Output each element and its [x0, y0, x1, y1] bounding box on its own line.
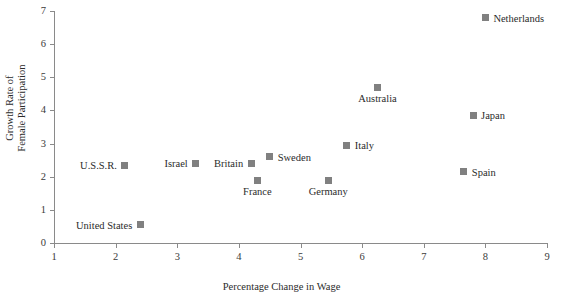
data-point-label: Germany: [309, 187, 348, 198]
x-tick-6: [362, 244, 363, 248]
y-tick-label-7: 7: [4, 6, 46, 17]
data-point-marker[interactable]: [248, 160, 255, 167]
x-tick-label-2: 2: [101, 252, 131, 263]
data-point-marker[interactable]: [343, 142, 350, 149]
data-point-label: Spain: [472, 168, 496, 179]
x-tick-5: [301, 244, 302, 248]
x-tick-label-8: 8: [470, 252, 500, 263]
x-tick-7: [424, 244, 425, 248]
data-point-label: Israel: [164, 159, 187, 170]
data-point-label: United States: [76, 221, 132, 232]
data-point-marker[interactable]: [460, 168, 467, 175]
x-tick-label-5: 5: [286, 252, 316, 263]
x-tick-3: [177, 244, 178, 248]
y-axis-title-line-2: Female Participation: [16, 28, 28, 188]
data-point-marker[interactable]: [137, 221, 144, 228]
data-point-label: Britain: [214, 159, 243, 170]
data-point-label: Australia: [358, 94, 397, 105]
scatter-plot-figure: 01234567 123456789 Percentage Change in …: [0, 0, 563, 301]
y-tick-label-0: 0: [4, 238, 46, 249]
data-point-label: Sweden: [278, 153, 311, 164]
y-tick-label-1: 1: [4, 205, 46, 216]
x-tick-label-9: 9: [532, 252, 562, 263]
x-tick-label-3: 3: [162, 252, 192, 263]
data-point-marker[interactable]: [325, 177, 332, 184]
x-axis-title: Percentage Change in Wage: [0, 281, 563, 292]
x-tick-4: [239, 244, 240, 248]
data-point-marker[interactable]: [192, 160, 199, 167]
x-tick-8: [485, 244, 486, 248]
x-tick-9: [547, 244, 548, 248]
x-tick-2: [116, 244, 117, 248]
data-point-label: Netherlands: [493, 14, 544, 25]
data-point-marker[interactable]: [482, 14, 489, 21]
data-point-label: Japan: [481, 111, 505, 122]
data-point-label: France: [243, 187, 272, 198]
y-axis-title-line-1: Growth Rate of: [4, 28, 16, 188]
plot-data-area: [54, 11, 547, 243]
data-point-marker[interactable]: [266, 153, 273, 160]
data-point-marker[interactable]: [374, 84, 381, 91]
x-tick-label-7: 7: [409, 252, 439, 263]
data-point-marker[interactable]: [470, 112, 477, 119]
x-tick-label-1: 1: [39, 252, 69, 263]
data-point-label: Italy: [355, 141, 374, 152]
data-point-marker[interactable]: [254, 177, 261, 184]
data-point-label: U.S.S.R.: [80, 161, 117, 172]
x-tick-label-6: 6: [347, 252, 377, 263]
data-point-marker[interactable]: [121, 162, 128, 169]
x-tick-label-4: 4: [224, 252, 254, 263]
x-tick-1: [54, 244, 55, 248]
y-axis-title: Growth Rate of Female Participation: [4, 28, 28, 188]
